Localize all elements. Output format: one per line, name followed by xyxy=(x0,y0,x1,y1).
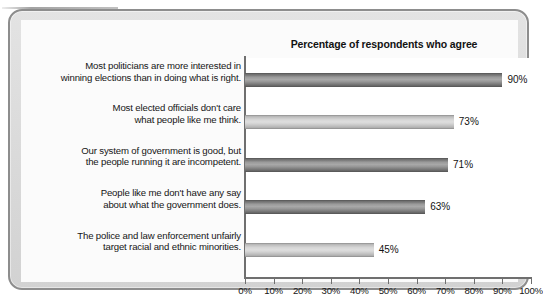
chart-title: Percentage of respondents who agree xyxy=(237,38,531,50)
x-axis-tick-label: 0% xyxy=(238,285,251,296)
x-axis-tick xyxy=(245,279,246,284)
x-axis-tick-label: 30% xyxy=(321,285,340,296)
x-axis-tick-label: 40% xyxy=(350,285,369,296)
bar-row: 71% xyxy=(245,158,531,172)
chart-card: Percentage of respondents who agree Most… xyxy=(21,20,518,282)
category-label-column: Most politicians are more interested inw… xyxy=(35,58,241,278)
x-axis-tick-label: 50% xyxy=(379,285,398,296)
bar-row: 63% xyxy=(245,200,531,214)
bar[interactable] xyxy=(245,158,448,172)
x-axis-tick xyxy=(331,279,332,284)
x-axis-tick xyxy=(531,279,532,284)
x-axis-tick-label: 20% xyxy=(293,285,312,296)
x-axis-tick xyxy=(417,279,418,284)
x-axis-tick-label: 10% xyxy=(264,285,283,296)
bar[interactable] xyxy=(245,115,454,129)
category-label-line: target racial and ethnic minorities. xyxy=(35,241,241,253)
category-label-line: Most politicians are more interested in xyxy=(35,60,241,72)
figure-frame: Percentage of respondents who agree Most… xyxy=(8,9,529,290)
bar-value-label: 90% xyxy=(507,72,527,87)
category-label: The police and law enforcement unfairlyt… xyxy=(35,230,241,253)
x-axis-tick-label: 100% xyxy=(519,285,543,296)
x-axis-tick-label: 70% xyxy=(436,285,455,296)
x-axis-tick xyxy=(502,279,503,284)
bar-value-label: 71% xyxy=(453,157,473,172)
x-axis-tick xyxy=(445,279,446,284)
x-axis-tick xyxy=(274,279,275,284)
x-axis-tick xyxy=(474,279,475,284)
x-axis-tick-label: 90% xyxy=(493,285,512,296)
x-axis-tick-label: 60% xyxy=(407,285,426,296)
bar-value-label: 45% xyxy=(379,242,399,257)
bar-value-label: 63% xyxy=(430,199,450,214)
x-axis-tick xyxy=(359,279,360,284)
bar[interactable] xyxy=(245,243,374,257)
category-label: Our system of government is good, butthe… xyxy=(35,145,241,168)
bar-row: 73% xyxy=(245,115,531,129)
category-label-line: The police and law enforcement unfairly xyxy=(35,230,241,242)
x-axis-tick-label: 80% xyxy=(464,285,483,296)
category-label-line: about what the government does. xyxy=(35,199,241,211)
category-label: Most elected officials don't carewhat pe… xyxy=(35,102,241,125)
x-axis-tick xyxy=(302,279,303,284)
category-label: Most politicians are more interested inw… xyxy=(35,60,241,83)
category-label: People like me don't have any sayabout w… xyxy=(35,187,241,210)
category-label-line: what people like me think. xyxy=(35,114,241,126)
bar-row: 90% xyxy=(245,73,531,87)
category-label-line: Our system of government is good, but xyxy=(35,145,241,157)
bar[interactable] xyxy=(245,200,425,214)
category-label-line: People like me don't have any say xyxy=(35,187,241,199)
bar[interactable] xyxy=(245,73,502,87)
bar-row: 45% xyxy=(245,243,531,257)
category-label-line: Most elected officials don't care xyxy=(35,102,241,114)
category-label-line: the people running it are incompetent. xyxy=(35,156,241,168)
category-label-line: winning elections than in doing what is … xyxy=(35,72,241,84)
x-axis-tick xyxy=(388,279,389,284)
bar-value-label: 73% xyxy=(459,114,479,129)
